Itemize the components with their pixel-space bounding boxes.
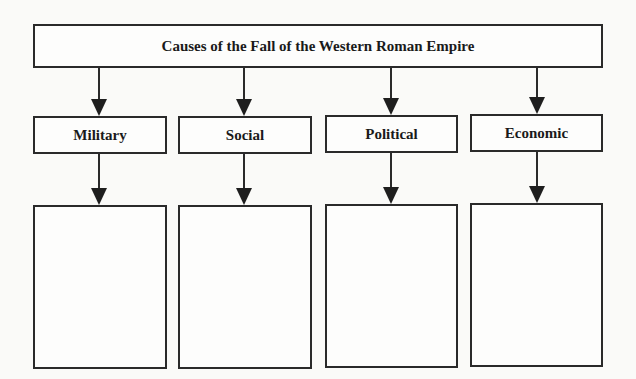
category-label: Economic [505, 125, 568, 142]
category-label: Military [73, 127, 126, 144]
category-box-social: Social [178, 116, 312, 154]
answer-box-political[interactable] [325, 204, 458, 368]
category-box-military: Military [33, 116, 167, 154]
category-label: Social [226, 127, 264, 144]
arrow-political-to-box [383, 153, 399, 204]
arrow-title-to-social [236, 68, 252, 116]
category-box-political: Political [325, 115, 458, 153]
arrow-military-to-box [91, 154, 107, 205]
category-label: Political [365, 126, 418, 143]
arrow-title-to-political [383, 68, 399, 115]
answer-box-social[interactable] [178, 205, 312, 369]
arrow-social-to-box [236, 154, 252, 205]
diagram-title: Causes of the Fall of the Western Roman … [162, 38, 475, 55]
diagram-title-box: Causes of the Fall of the Western Roman … [33, 24, 603, 68]
category-box-economic: Economic [470, 114, 603, 152]
answer-box-economic[interactable] [470, 203, 603, 367]
arrow-title-to-economic [529, 68, 545, 114]
arrow-title-to-military [91, 68, 107, 116]
arrow-economic-to-box [529, 152, 545, 203]
answer-box-military[interactable] [33, 205, 167, 369]
